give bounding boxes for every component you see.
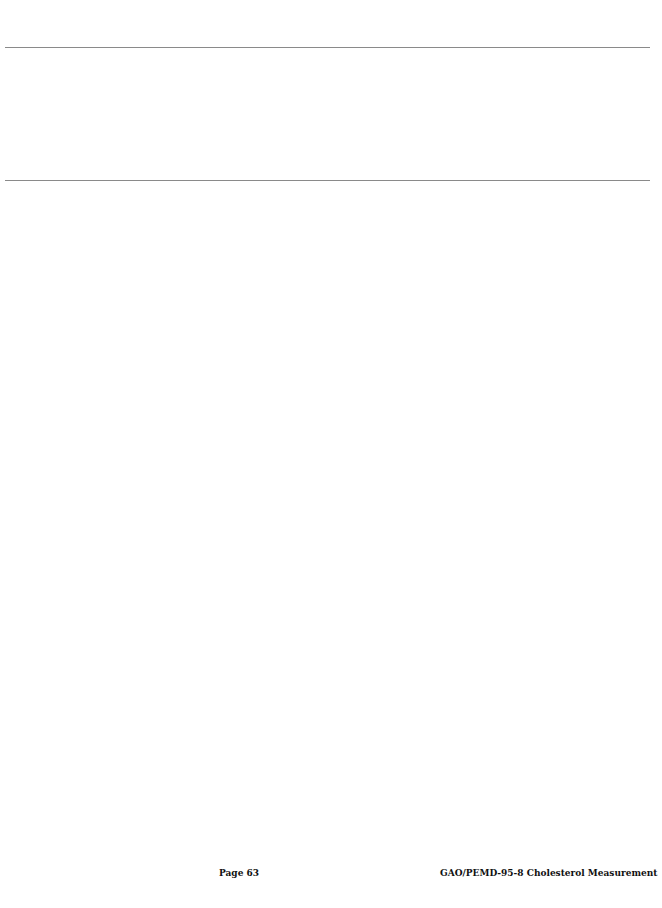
- document-id: GAO/PEMD-95-8 Cholesterol Measurement: [440, 868, 657, 878]
- page-number: Page 63: [219, 868, 259, 878]
- header-rule: [5, 47, 650, 48]
- section-rule: [5, 180, 650, 181]
